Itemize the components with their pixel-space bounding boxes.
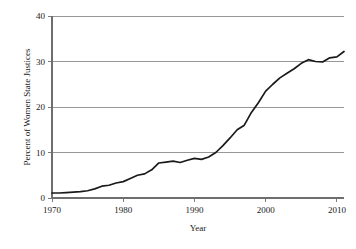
x-tick-label: 1980 — [114, 205, 133, 215]
y-tick-label: 10 — [36, 148, 46, 158]
y-tick-label: 30 — [36, 57, 46, 67]
y-tick-label: 0 — [41, 193, 46, 203]
x-tick-labels: 19701980199020002010 — [43, 205, 346, 215]
line-chart: 010203040 19701980199020002010 Year Perc… — [0, 0, 356, 249]
gridlines — [52, 16, 344, 198]
x-tick-label: 1990 — [185, 205, 204, 215]
x-tick-marks — [52, 198, 337, 202]
chart-figure: 010203040 19701980199020002010 Year Perc… — [0, 0, 356, 249]
x-tick-label: 2000 — [257, 205, 276, 215]
y-tick-label: 40 — [36, 11, 46, 21]
x-tick-label: 1970 — [43, 205, 62, 215]
data-series-line — [52, 51, 344, 193]
y-tick-label: 20 — [36, 102, 46, 112]
y-axis-title: Percent of Women State Justices — [22, 48, 32, 166]
x-tick-label: 2010 — [328, 205, 347, 215]
y-tick-marks — [48, 16, 52, 198]
x-axis-title: Year — [190, 223, 207, 233]
y-tick-labels: 010203040 — [36, 11, 46, 203]
